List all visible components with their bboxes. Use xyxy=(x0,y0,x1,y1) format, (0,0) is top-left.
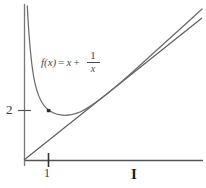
x-axis-tick-label-1: 1 xyxy=(44,167,50,179)
y-axis-tick-label-2: 2 xyxy=(6,103,13,116)
formula-equals: = xyxy=(58,57,64,68)
formula-lhs: f(x) xyxy=(41,57,56,68)
minimum-point-marker xyxy=(47,109,51,112)
formula-plus: + xyxy=(73,57,79,68)
formula-fraction: 1 x xyxy=(87,50,100,74)
fraction-denominator: x xyxy=(88,63,98,74)
fraction-numerator: 1 xyxy=(87,50,99,62)
function-graph-figure: 2 1 I f(x) = x + 1 x xyxy=(0,0,206,188)
interval-label-I: I xyxy=(131,167,137,182)
formula-term-x: x xyxy=(66,57,71,68)
plot-canvas xyxy=(0,0,206,188)
function-formula-annotation: f(x) = x + 1 x xyxy=(41,50,100,74)
